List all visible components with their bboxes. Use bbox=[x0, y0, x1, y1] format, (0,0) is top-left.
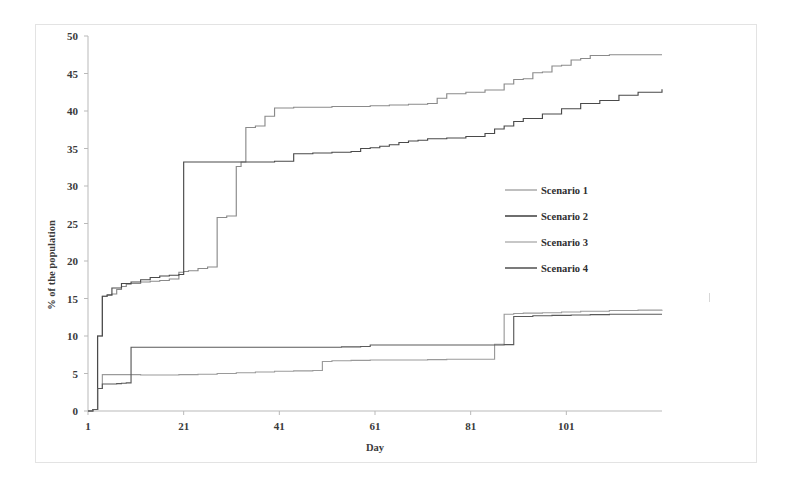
legend-label-1: Scenario 1 bbox=[541, 185, 588, 196]
x-tick-label: 1 bbox=[85, 420, 91, 432]
series-line-scenario-2 bbox=[88, 89, 662, 411]
y-axis-title: % of the population bbox=[46, 220, 57, 310]
y-tick-label: 15 bbox=[67, 293, 79, 305]
y-axis: 05101520253035404550 bbox=[67, 30, 88, 417]
x-axis-title: Day bbox=[366, 442, 385, 453]
x-tick-label: 61 bbox=[370, 420, 381, 432]
legend-label-4: Scenario 4 bbox=[541, 263, 589, 274]
x-tick-label: 21 bbox=[178, 420, 189, 432]
y-tick-label: 35 bbox=[67, 143, 79, 155]
x-tick-label: 101 bbox=[558, 420, 575, 432]
y-tick-label: 5 bbox=[73, 368, 79, 380]
y-tick-label: 45 bbox=[67, 68, 79, 80]
series-group bbox=[88, 55, 662, 411]
legend: Scenario 1Scenario 2Scenario 3Scenario 4 bbox=[505, 185, 589, 274]
y-tick-label: 50 bbox=[67, 30, 79, 42]
x-axis-ticks: 121416181101 bbox=[85, 411, 574, 432]
chart-figure: 05101520253035404550 121416181101 Day % … bbox=[0, 0, 789, 482]
x-tick-label: 81 bbox=[465, 420, 476, 432]
series-line-scenario-3 bbox=[88, 310, 662, 411]
y-tick-label: 10 bbox=[67, 330, 79, 342]
y-tick-label: 25 bbox=[67, 218, 79, 230]
y-tick-label: 20 bbox=[67, 255, 79, 267]
x-tick-label: 41 bbox=[274, 420, 285, 432]
series-line-scenario-4 bbox=[88, 314, 662, 411]
legend-label-3: Scenario 3 bbox=[541, 237, 588, 248]
y-tick-label: 0 bbox=[73, 405, 79, 417]
y-tick-label: 40 bbox=[67, 105, 79, 117]
y-tick-label: 30 bbox=[67, 180, 79, 192]
y-axis-ticks: 05101520253035404550 bbox=[67, 30, 88, 417]
legend-label-2: Scenario 2 bbox=[541, 211, 588, 222]
x-axis: 121416181101 bbox=[85, 411, 662, 432]
line-chart-svg: 05101520253035404550 121416181101 Day % … bbox=[0, 0, 789, 482]
